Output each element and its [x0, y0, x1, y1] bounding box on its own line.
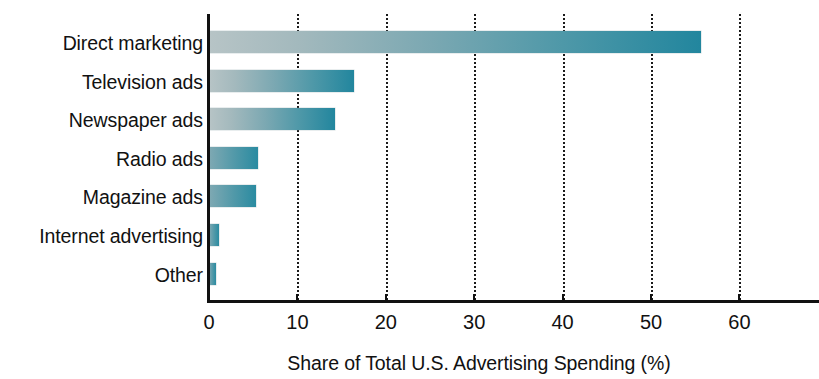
bar — [209, 108, 335, 130]
y-axis-label: Television ads — [6, 71, 203, 93]
y-axis-label: Magazine ads — [6, 186, 203, 208]
x-tick-label: 30 — [444, 310, 504, 334]
x-tick-label: 20 — [356, 310, 416, 334]
y-axis-label: Other — [6, 264, 203, 286]
y-axis-line — [207, 14, 210, 301]
x-tick-label: 50 — [621, 310, 681, 334]
y-axis-label: Radio ads — [6, 148, 203, 170]
plot-area — [209, 14, 749, 300]
gridline-20 — [386, 14, 388, 300]
gridline-30 — [474, 14, 476, 300]
x-tick-60 — [738, 294, 740, 303]
y-axis-label: Internet advertising — [6, 225, 203, 247]
x-tick-20 — [385, 294, 387, 303]
x-tick-10 — [296, 294, 298, 303]
x-tick-50 — [650, 294, 652, 303]
x-axis-title: Share of Total U.S. Advertising Spending… — [209, 352, 749, 375]
y-axis-category-labels: Direct marketingTelevision adsNewspaper … — [0, 14, 203, 300]
x-axis-line — [207, 300, 819, 303]
x-tick-label: 10 — [267, 310, 327, 334]
x-tick-30 — [473, 294, 475, 303]
bar-chart-figure: Direct marketingTelevision adsNewspaper … — [0, 0, 819, 379]
x-tick-label: 60 — [709, 310, 769, 334]
y-axis-label: Direct marketing — [6, 32, 203, 54]
gridline-40 — [563, 14, 565, 300]
bar — [209, 31, 701, 53]
x-tick-40 — [562, 294, 564, 303]
gridline-50 — [651, 14, 653, 300]
gridline-60 — [739, 14, 741, 300]
x-tick-label: 40 — [533, 310, 593, 334]
x-tick-0 — [208, 294, 210, 303]
x-tick-label: 0 — [179, 310, 239, 334]
bar — [209, 147, 258, 169]
gridline-10 — [297, 14, 299, 300]
bar — [209, 185, 256, 207]
bar — [209, 70, 354, 92]
bar — [209, 224, 219, 246]
bar — [209, 263, 216, 285]
y-axis-label: Newspaper ads — [6, 109, 203, 131]
